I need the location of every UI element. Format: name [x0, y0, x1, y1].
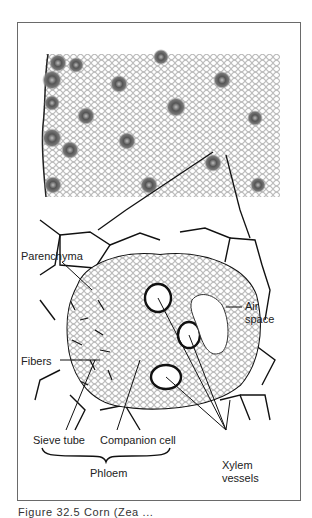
label-fibers: Fibers	[21, 355, 52, 367]
label-xylem-1: Xylem	[222, 459, 253, 471]
label-phloem: Phloem	[90, 467, 127, 479]
label-air-space-1: Air	[245, 300, 258, 312]
label-parenchyma: Parenchyma	[21, 250, 83, 262]
label-sieve-tube: Sieve tube	[33, 434, 85, 446]
figure-caption: Figure 32.5 Corn (Zea ...	[18, 506, 153, 518]
label-xylem-2: vessels	[222, 472, 259, 484]
label-air-space-2: space	[245, 313, 274, 325]
cross-section-micrograph	[42, 49, 280, 238]
label-companion-cell: Companion cell	[100, 434, 176, 446]
